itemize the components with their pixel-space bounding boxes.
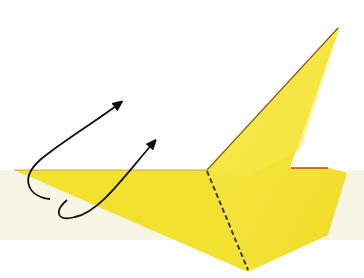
paper-upper-shade	[207, 26, 340, 175]
origami-diagram	[0, 0, 364, 278]
diagram-canvas	[0, 0, 364, 278]
